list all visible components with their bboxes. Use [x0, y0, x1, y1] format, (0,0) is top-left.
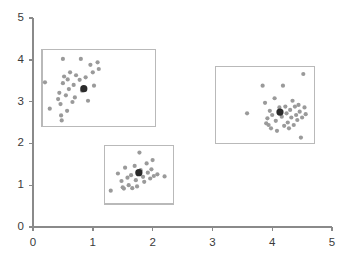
data-point: [281, 84, 285, 88]
data-point: [59, 113, 63, 117]
data-point: [119, 179, 123, 183]
data-point: [70, 100, 74, 104]
y-tick-label: 1: [18, 178, 24, 190]
data-point: [61, 81, 65, 85]
data-point: [137, 150, 141, 154]
scatter-plot-figure: 012345 012345: [0, 0, 353, 263]
data-point: [125, 176, 129, 180]
data-point: [270, 113, 274, 117]
data-point: [88, 63, 92, 67]
data-point: [274, 119, 278, 123]
data-point: [122, 186, 126, 190]
data-point: [72, 83, 76, 87]
data-point: [129, 173, 133, 177]
data-point: [60, 118, 64, 122]
data-point: [151, 158, 155, 162]
data-point: [298, 110, 302, 114]
x-tick-label: 1: [90, 236, 96, 248]
data-point: [275, 129, 279, 133]
data-point: [58, 102, 62, 106]
x-axis-ticks: 012345: [30, 227, 335, 248]
y-tick-label: 2: [18, 136, 24, 148]
centroid-marker: [135, 169, 142, 176]
data-point: [282, 124, 286, 128]
data-point: [299, 135, 303, 139]
data-points-layer: [43, 57, 308, 193]
data-point: [141, 175, 145, 179]
data-point: [149, 167, 153, 171]
data-point: [130, 186, 134, 190]
data-point: [61, 57, 65, 61]
data-point: [86, 99, 90, 103]
data-point: [152, 174, 156, 178]
data-point: [301, 72, 305, 76]
data-point: [56, 97, 60, 101]
data-point: [127, 183, 131, 187]
data-point: [245, 111, 249, 115]
data-point: [84, 75, 88, 79]
data-point: [289, 115, 293, 119]
data-point: [123, 166, 127, 170]
x-tick-label: 5: [329, 236, 335, 248]
centroid-markers-layer: [80, 85, 283, 176]
x-tick-label: 3: [209, 236, 215, 248]
data-point: [148, 176, 152, 180]
y-tick-label: 3: [18, 95, 24, 107]
data-point: [97, 67, 101, 71]
data-point: [294, 113, 298, 117]
data-point: [155, 172, 159, 176]
data-point: [65, 109, 69, 113]
data-point: [284, 111, 288, 115]
data-point: [91, 70, 95, 74]
data-point: [79, 57, 83, 61]
cluster-bounding-boxes: [42, 49, 314, 204]
x-tick-label: 4: [269, 236, 276, 248]
data-point: [78, 78, 82, 82]
data-point: [296, 103, 300, 107]
data-point: [288, 108, 292, 112]
data-point: [272, 96, 276, 100]
data-point: [265, 116, 269, 120]
data-point: [287, 126, 291, 130]
y-tick-label: 5: [18, 11, 24, 23]
data-point: [146, 171, 150, 175]
y-tick-label: 0: [18, 220, 24, 232]
data-point: [290, 99, 294, 103]
data-point: [62, 74, 66, 78]
data-point: [286, 120, 290, 124]
data-point: [261, 84, 265, 88]
data-point: [43, 80, 47, 84]
data-point: [92, 84, 96, 88]
data-point: [64, 93, 68, 97]
data-point: [300, 115, 304, 119]
x-tick-label: 0: [30, 236, 36, 248]
data-point: [295, 118, 299, 122]
plot-canvas: 012345 012345: [0, 0, 353, 263]
data-point: [292, 123, 296, 127]
data-point: [283, 105, 287, 109]
data-point: [302, 105, 306, 109]
data-point: [269, 126, 273, 130]
data-point: [263, 101, 267, 105]
data-point: [142, 180, 146, 184]
data-point: [134, 178, 138, 182]
x-tick-label: 2: [149, 236, 155, 248]
data-point: [304, 112, 308, 116]
data-point: [293, 105, 297, 109]
centroid-marker: [276, 108, 283, 115]
data-point: [268, 109, 272, 113]
data-point: [73, 95, 77, 99]
data-point: [145, 161, 149, 165]
data-point: [116, 171, 120, 175]
y-axis-ticks: 012345: [18, 11, 33, 232]
data-point: [133, 164, 137, 168]
data-point: [68, 70, 72, 74]
data-point: [74, 73, 78, 77]
data-point: [109, 189, 113, 193]
centroid-marker: [80, 85, 87, 92]
data-point: [57, 91, 61, 95]
data-point: [66, 77, 70, 81]
data-point: [48, 107, 52, 111]
data-point: [162, 174, 166, 178]
data-point: [135, 184, 139, 188]
